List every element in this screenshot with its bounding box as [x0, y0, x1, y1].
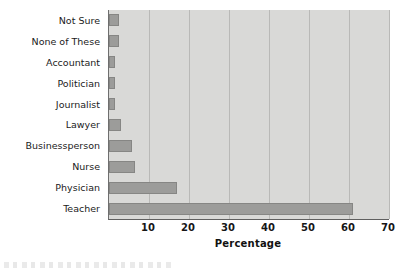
- bar-chart-figure: Not SureNone of TheseAccountantPoliticia…: [0, 0, 398, 271]
- category-axis: Not SureNone of TheseAccountantPoliticia…: [0, 10, 104, 219]
- bar: [109, 35, 119, 47]
- bar: [109, 182, 177, 194]
- x-axis-tick-labels: 10203040506070: [108, 222, 398, 236]
- bar: [109, 98, 115, 110]
- bar: [109, 77, 115, 89]
- bar: [109, 203, 353, 215]
- bar: [109, 161, 135, 173]
- category-label: Teacher: [0, 203, 100, 214]
- category-label: Nurse: [0, 161, 100, 172]
- category-label: Lawyer: [0, 119, 100, 130]
- category-label: Journalist: [0, 99, 100, 110]
- x-tick-label-40: 40: [253, 222, 283, 233]
- bar: [109, 119, 121, 131]
- scan-artifact: [4, 262, 174, 268]
- category-label: Accountant: [0, 57, 100, 68]
- bar: [109, 14, 119, 26]
- x-tick-label-10: 10: [133, 222, 163, 233]
- category-label: Politician: [0, 78, 100, 89]
- x-axis-title: Percentage: [108, 238, 388, 249]
- bar: [109, 140, 132, 152]
- x-tick-label-50: 50: [293, 222, 323, 233]
- category-label: Businessperson: [0, 140, 100, 151]
- x-tick-label-30: 30: [213, 222, 243, 233]
- bar: [109, 56, 115, 68]
- x-tick-label-70: 70: [373, 222, 398, 233]
- category-label: Not Sure: [0, 15, 100, 26]
- bar-series: [109, 10, 389, 219]
- category-label: Physician: [0, 182, 100, 193]
- category-label: None of These: [0, 36, 100, 47]
- x-tick-label-20: 20: [173, 222, 203, 233]
- plot-area: [108, 10, 389, 220]
- x-tick-label-60: 60: [333, 222, 363, 233]
